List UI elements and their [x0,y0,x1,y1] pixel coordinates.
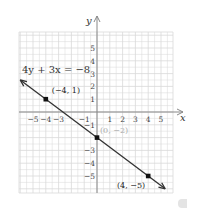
y-tick-label: 4 [90,57,95,66]
graph: −5−4−3−11234554321−1−3−4−5 (−4, 1)(0, −2… [0,0,197,208]
y-tick-label: 1 [90,95,95,104]
scroll-handle[interactable] [178,199,187,208]
x-tick-label: 4 [146,115,151,124]
y-tick-label: −4 [84,159,95,168]
data-point-label: (−4, 1) [52,86,80,95]
data-point-marker [146,174,151,179]
data-point-marker [95,135,100,140]
axes [19,16,183,193]
x-tick-label: 3 [133,115,138,124]
x-tick-label: −4 [40,115,51,124]
equation-label: 4y + 3x = −8 [22,64,90,75]
x-tick-label: 1 [107,115,112,124]
data-point-label: (4, −5) [117,181,145,190]
data-point-label: (0, −2) [100,126,128,135]
y-tick-label: −5 [84,172,95,181]
y-tick-label: 5 [90,44,95,53]
x-tick-label: 2 [120,115,125,124]
y-tick-label: −3 [84,146,95,155]
data-point-marker [44,97,49,102]
y-axis-label: y [85,15,92,26]
y-tick-label: 2 [90,82,95,91]
y-tick-label: 3 [90,70,95,79]
x-tick-label: −3 [53,115,64,124]
x-axis-label: x [180,112,186,123]
x-tick-label: 5 [159,115,164,124]
x-tick-label: −5 [27,115,38,124]
